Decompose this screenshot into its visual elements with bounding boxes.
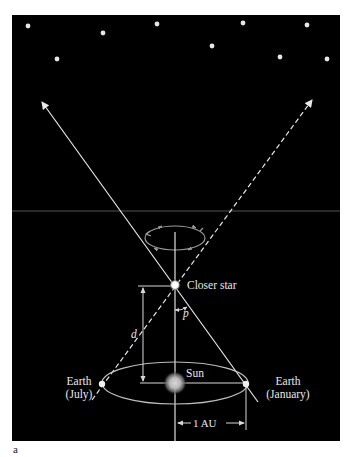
figure-panel-letter: a [13, 443, 18, 455]
star-icon [26, 24, 31, 29]
earth-july-label: Earth (July) [62, 375, 96, 401]
star-icon [101, 31, 106, 36]
star-icon [241, 21, 246, 26]
sun-label: Sun [186, 367, 204, 380]
earth-july-label-line2: (July) [62, 388, 96, 401]
parallax-angle-label: p [183, 307, 189, 320]
earth-january-label: Earth (January) [262, 375, 314, 401]
star-icon [305, 23, 310, 28]
sightline-july [92, 100, 312, 400]
closer-star-label: Closer star [187, 279, 237, 292]
background-stars [26, 21, 330, 62]
earth-january-label-line2: (January) [262, 388, 314, 401]
star-icon [325, 57, 330, 62]
star-icon [155, 22, 160, 27]
au-label: 1 AU [193, 417, 217, 430]
star-icon [278, 55, 283, 60]
star-icon [55, 57, 60, 62]
sun-icon [163, 371, 187, 395]
distance-label: d [131, 328, 137, 341]
star-icon [210, 44, 215, 49]
sightline-january [42, 102, 258, 402]
earth-january-icon [243, 381, 249, 387]
earth-january-label-line1: Earth [262, 375, 314, 388]
earth-july-icon [99, 381, 105, 387]
earth-july-label-line1: Earth [62, 375, 96, 388]
distance-dimension [138, 286, 172, 382]
